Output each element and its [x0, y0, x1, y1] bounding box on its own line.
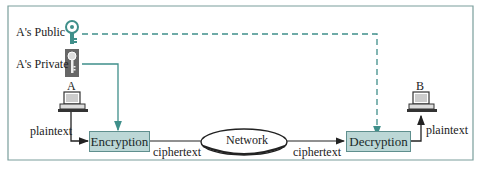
sender-plaintext-label: plaintext	[30, 125, 72, 137]
decryption-box: Decryption	[346, 131, 411, 152]
encryption-box: Encryption	[89, 131, 150, 152]
plaintext-in-arrow	[71, 112, 88, 141]
public-key-label: A's Public	[16, 26, 65, 38]
private-key-label: A's Private	[16, 58, 69, 70]
sender-label: A	[67, 80, 76, 92]
plaintext-out-arrow	[411, 116, 421, 141]
computer-a-icon	[58, 92, 88, 112]
ciphertext-left-label: ciphertext	[153, 146, 201, 158]
public-key-dashed-line	[82, 34, 377, 135]
receiver-label: B	[416, 80, 424, 92]
network-label: Network	[226, 134, 268, 146]
diagram-canvas	[0, 0, 482, 186]
computer-b-icon	[407, 92, 437, 112]
public-key-icon	[66, 21, 78, 44]
ciphertext-right-label: ciphertext	[293, 146, 341, 158]
receiver-plaintext-label: plaintext	[426, 124, 468, 136]
private-key-line	[82, 64, 118, 130]
